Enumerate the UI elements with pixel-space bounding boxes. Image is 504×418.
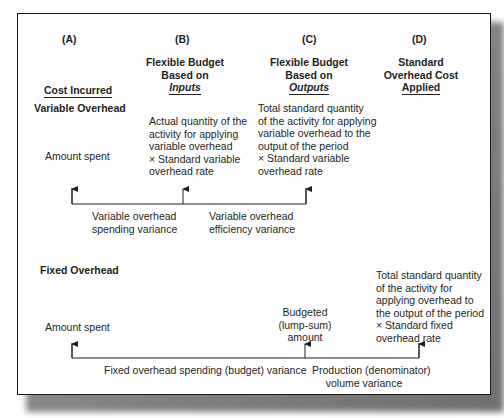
connector-lines [0,0,504,418]
fixed-bracket-line [72,343,419,358]
variable-bracket-line [72,188,306,204]
